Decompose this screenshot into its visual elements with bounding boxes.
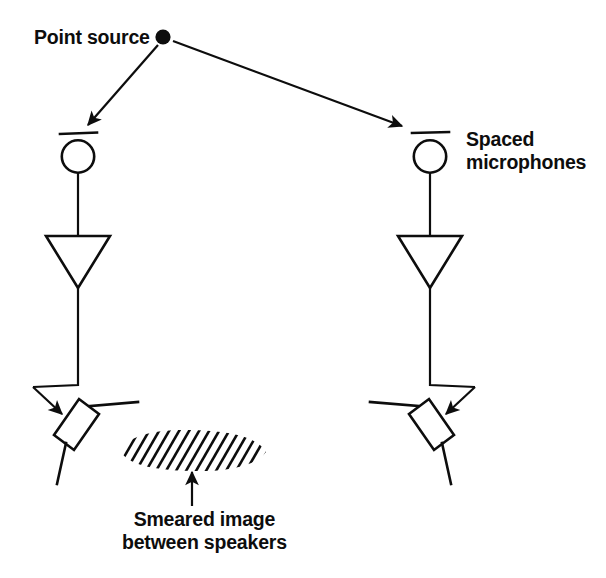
left-amplifier-output-lead (33, 288, 78, 387)
diagram-svg (0, 0, 606, 578)
right-amplifier-triangle (398, 236, 462, 288)
spaced-microphones-label: Spaced microphones (466, 128, 586, 174)
right-speaker-baffle-upper (370, 402, 418, 406)
ray-to-left-microphone-arrow (88, 45, 158, 125)
left-speaker-feed-arrow (33, 387, 62, 414)
left-speaker-baffle-lower (57, 443, 66, 484)
smeared-image-caption: Smeared image between speakers (122, 508, 287, 554)
right-speaker-feed-arrow (446, 387, 475, 414)
point-source-label: Point source (34, 26, 150, 49)
left-microphone-body (62, 140, 94, 172)
right-amplifier-output-lead (430, 288, 475, 387)
right-microphone-body (414, 140, 446, 172)
left-amplifier-triangle (46, 236, 110, 288)
right-microphone-bar (412, 132, 449, 133)
point-source-dot (155, 29, 170, 44)
left-speaker-baffle-upper (90, 402, 138, 406)
left-microphone-bar (60, 133, 97, 135)
left-channel-group (33, 133, 138, 485)
right-speaker-baffle-lower (442, 443, 451, 484)
diagram-canvas: Point source Spaced microphones Smeared … (0, 0, 606, 578)
ray-to-right-microphone-arrow (173, 41, 402, 126)
right-channel-group (370, 132, 475, 484)
